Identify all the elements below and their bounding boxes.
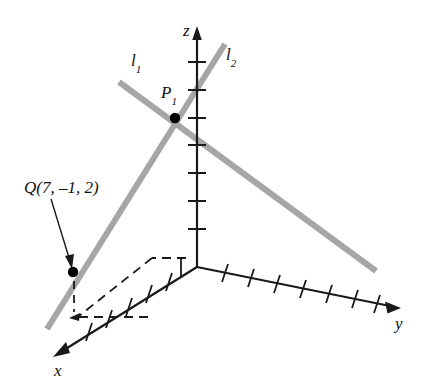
point-label-p1-base: P: [161, 83, 171, 102]
axis-y-arrowhead: [385, 302, 401, 314]
figure-canvas: z y x l1 l2 P1 Q(7, –1, 2): [0, 0, 422, 391]
point-label-p1-subscript: 1: [171, 95, 177, 107]
point-q-dot: [68, 267, 78, 277]
axis-x: [64, 267, 197, 350]
q-callout-line: [51, 199, 70, 261]
line-label-l1: l1: [131, 52, 141, 72]
axis-label-x: x: [54, 362, 62, 379]
line-l2: [119, 82, 376, 271]
dash-drop-arrowhead: [69, 313, 80, 321]
point-p1-dot: [170, 113, 180, 123]
axis-label-z: z: [183, 22, 190, 39]
line-label-l1-subscript: 1: [136, 63, 142, 75]
line-label-l2: l2: [226, 46, 236, 66]
point-label-p1: P1: [161, 84, 177, 104]
point-label-q: Q(7, –1, 2): [24, 179, 99, 196]
axis-x-arrowhead: [53, 342, 70, 357]
q-callout-arrowhead: [65, 254, 74, 269]
axis-z-arrowhead: [192, 26, 202, 40]
dash-projection-diagonal: [79, 258, 152, 316]
axis-label-y: y: [395, 315, 403, 332]
line-label-l2-subscript: 2: [231, 57, 237, 69]
